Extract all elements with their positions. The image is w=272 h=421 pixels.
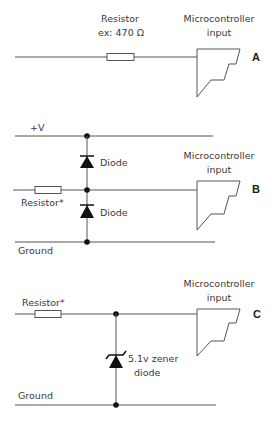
supply-label-b: +V xyxy=(30,122,45,133)
circuit-c: Microcontroller input Resistor* 5.1v zen… xyxy=(15,278,261,408)
mcu-input-label-a: input xyxy=(207,27,232,38)
resistor-value-label-a: ex: 470 Ω xyxy=(98,27,144,38)
diode-top-label-b: Diode xyxy=(100,157,128,168)
diode-bottom-b xyxy=(80,205,94,218)
mcu-label-c: Microcontroller xyxy=(184,278,255,289)
junction-signal-b xyxy=(84,187,90,193)
ground-label-b: Ground xyxy=(18,245,53,256)
ground-label-c: Ground xyxy=(18,390,53,401)
mcu-label-b: Microcontroller xyxy=(184,150,255,161)
schmitt-input-b xyxy=(197,181,240,230)
circuit-tag-b: B xyxy=(252,183,260,195)
mcu-input-label-c: input xyxy=(207,292,232,303)
mcu-label-a: Microcontroller xyxy=(184,13,255,24)
zener-label-line2-c: diode xyxy=(134,367,161,378)
circuit-b: +V Diode Resistor* Diode Ground Microcon… xyxy=(13,122,260,256)
resistor-label-a: Resistor xyxy=(101,13,139,24)
circuit-a: Resistor ex: 470 Ω Microcontroller input… xyxy=(15,13,260,97)
diode-top-b xyxy=(80,156,94,168)
junction-ground-b xyxy=(84,239,90,245)
diode-bottom-label-b: Diode xyxy=(100,207,128,218)
junction-ground-c xyxy=(113,402,119,408)
circuit-diagrams: Resistor ex: 470 Ω Microcontroller input… xyxy=(0,0,272,421)
resistor-b xyxy=(35,187,61,194)
circuit-tag-c: C xyxy=(253,308,261,320)
mcu-input-label-b: input xyxy=(207,164,232,175)
resistor-label-b: Resistor* xyxy=(21,197,64,208)
resistor-label-c: Resistor* xyxy=(22,297,65,308)
resistor-a xyxy=(107,54,134,61)
schmitt-input-a xyxy=(197,49,240,97)
circuit-tag-a: A xyxy=(252,51,260,63)
resistor-c xyxy=(35,311,61,318)
zener-label-c: 5.1v zener xyxy=(128,353,178,364)
zener-diode-c xyxy=(109,355,123,368)
schmitt-input-c xyxy=(197,309,240,356)
